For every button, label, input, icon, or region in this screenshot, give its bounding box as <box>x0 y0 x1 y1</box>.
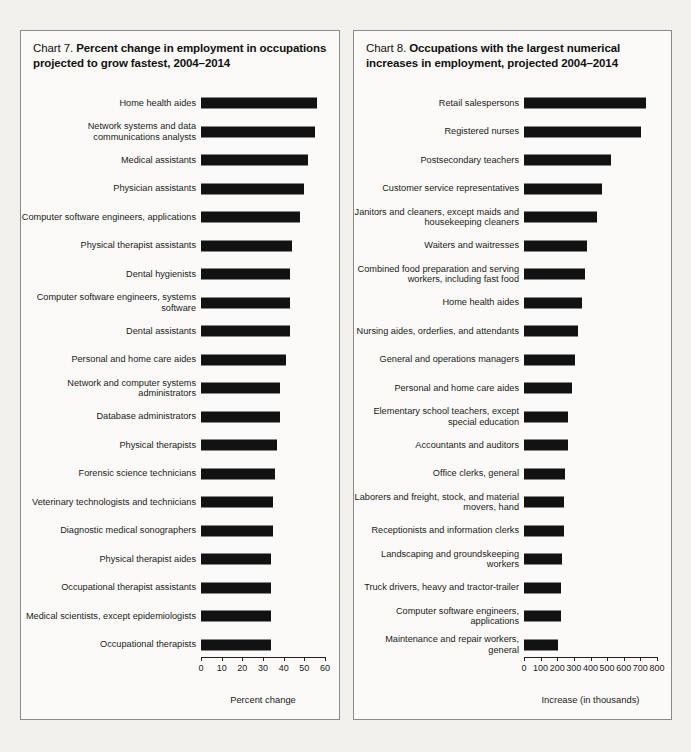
bar-track <box>201 517 339 546</box>
bar-row-label: Laborers and freight, stock, and materia… <box>354 492 524 513</box>
bar-track <box>524 289 671 318</box>
chart-7-x-axis: 0102030405060 <box>201 657 325 679</box>
bar-row-label: Computer software engineers, application… <box>21 212 201 223</box>
bar-track <box>524 517 671 546</box>
bar <box>524 240 587 251</box>
bar-row-label: Elementary school teachers, except speci… <box>354 406 524 427</box>
bar-track <box>201 431 339 460</box>
chart-7-panel: Chart 7. Percent change in employment in… <box>20 30 340 720</box>
bar-row: Forensic science technicians <box>21 460 339 489</box>
bar <box>201 297 290 308</box>
bar-row: Personal and home care aides <box>21 346 339 375</box>
chart-7-plot: Home health aidesNetwork systems and dat… <box>21 89 339 719</box>
bar-row-label: Office clerks, general <box>354 468 524 479</box>
bar-row: Janitors and cleaners, except maids and … <box>354 203 671 232</box>
bar-row-label: Personal and home care aides <box>354 383 524 394</box>
bar <box>201 326 290 337</box>
x-axis-tick-label: 20 <box>237 663 247 673</box>
bar <box>524 326 578 337</box>
bar-row-label: Dental assistants <box>21 326 201 337</box>
bar-row: Waiters and waitresses <box>354 232 671 261</box>
x-axis-tick <box>640 657 641 661</box>
bar <box>524 212 597 223</box>
bar <box>201 183 304 194</box>
x-axis-tick-label: 400 <box>583 663 598 673</box>
bar-row: Computer software engineers, application… <box>354 602 671 631</box>
bar-row: Home health aides <box>354 289 671 318</box>
bar-row-label: Home health aides <box>354 297 524 308</box>
bar-row: Customer service representatives <box>354 175 671 204</box>
bar-row-label: Combined food preparation and serving wo… <box>354 264 524 285</box>
bar-row: Landscaping and groundskeeping workers <box>354 545 671 574</box>
bar-row: Physician assistants <box>21 175 339 204</box>
bar-track <box>524 317 671 346</box>
bar <box>201 354 286 365</box>
bar-row-label: Nursing aides, orderlies, and attendants <box>354 326 524 337</box>
bar-row-label: Physical therapist aides <box>21 554 201 565</box>
bar <box>524 383 572 394</box>
chart-8-x-axis: 0100200300400500600700800 <box>524 657 657 679</box>
x-axis-tick-label: 600 <box>616 663 631 673</box>
bar <box>201 554 271 565</box>
bar-row-label: Postsecondary teachers <box>354 155 524 166</box>
bar <box>524 155 611 166</box>
x-axis-tick <box>242 657 243 661</box>
bar-row-label: Personal and home care aides <box>21 354 201 365</box>
bar-row: Dental hygienists <box>21 260 339 289</box>
x-axis-tick <box>541 657 542 661</box>
bar-track <box>524 602 671 631</box>
bar-track <box>524 203 671 232</box>
x-axis-tick <box>304 657 305 661</box>
bar <box>201 582 271 593</box>
bar-row: Physical therapist assistants <box>21 232 339 261</box>
x-axis-tick <box>284 657 285 661</box>
bar <box>524 98 646 109</box>
chart-8-title-lead: Chart 8. <box>366 42 406 54</box>
x-axis-tick-label: 700 <box>633 663 648 673</box>
bar-row: Postsecondary teachers <box>354 146 671 175</box>
bar <box>201 497 273 508</box>
bar-track <box>201 260 339 289</box>
bar-row: Veterinary technologists and technicians <box>21 488 339 517</box>
bar-track <box>524 431 671 460</box>
chart-8-panel: Chart 8. Occupations with the largest nu… <box>353 30 672 720</box>
bar-row-label: Physical therapists <box>21 440 201 451</box>
bar-row: Physical therapists <box>21 431 339 460</box>
bar-track <box>201 89 339 118</box>
chart-7-bar-rows: Home health aidesNetwork systems and dat… <box>21 89 339 659</box>
bar-row-label: Computer software engineers, application… <box>354 606 524 627</box>
bar-row-label: Medical scientists, except epidemiologis… <box>21 611 201 622</box>
x-axis-tick-label: 50 <box>299 663 309 673</box>
bar-row-label: Home health aides <box>21 98 201 109</box>
bar <box>524 639 558 650</box>
bar-row: Medical scientists, except epidemiologis… <box>21 602 339 631</box>
x-axis-tick-label: 0 <box>198 663 203 673</box>
bar-row: Network and computer systems administrat… <box>21 374 339 403</box>
bar-row: Occupational therapist assistants <box>21 574 339 603</box>
x-axis-tick <box>263 657 264 661</box>
bar-row: Computer software engineers, systems sof… <box>21 289 339 318</box>
x-axis-tick <box>591 657 592 661</box>
bar-track <box>201 488 339 517</box>
bar-track <box>524 460 671 489</box>
bar-row: General and operations managers <box>354 346 671 375</box>
bar-row-label: Network and computer systems administrat… <box>21 378 201 399</box>
bar-row: Registered nurses <box>354 118 671 147</box>
x-axis-tick-label: 0 <box>521 663 526 673</box>
bar <box>524 468 565 479</box>
x-axis-tick-label: 800 <box>649 663 664 673</box>
bar-row-label: Physical therapist assistants <box>21 240 201 251</box>
x-axis-tick <box>557 657 558 661</box>
x-axis-tick <box>574 657 575 661</box>
bar-row-label: Occupational therapists <box>21 639 201 650</box>
bar-row-label: Registered nurses <box>354 126 524 137</box>
bar <box>524 440 568 451</box>
bar <box>201 611 271 622</box>
bar <box>201 411 280 422</box>
bar <box>524 183 602 194</box>
bar <box>201 240 292 251</box>
bar-row: Database administrators <box>21 403 339 432</box>
bar-row: Diagnostic medical sonographers <box>21 517 339 546</box>
bar-row: Receptionists and information clerks <box>354 517 671 546</box>
bar-track <box>524 232 671 261</box>
